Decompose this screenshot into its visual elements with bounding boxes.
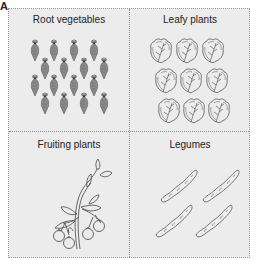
carrot-icon [31, 40, 107, 115]
tomato-plant-icon [54, 159, 113, 249]
panel-label: A [0, 0, 8, 12]
lettuce-leaf-icon [151, 39, 230, 123]
pea-pod-icon [156, 170, 239, 237]
plant-category-grid: Root vegetables Leafy plants Fruiting pl… [8, 8, 250, 258]
illustrations [9, 9, 251, 259]
